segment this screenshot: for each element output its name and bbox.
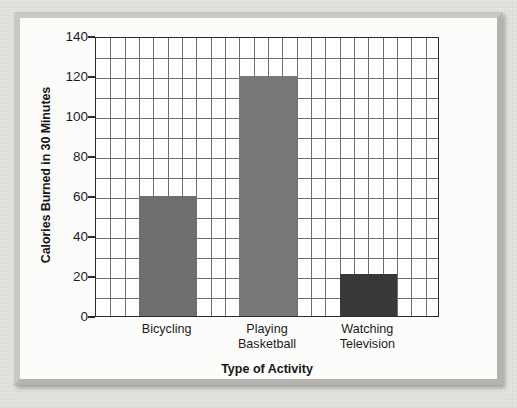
y-axis-tick-label: 0 <box>48 310 88 324</box>
bar-chart: Calories Burned in 30 Minutes 0204060801… <box>20 18 497 379</box>
y-axis-tick-mark <box>88 36 95 38</box>
y-axis-tick-mark <box>88 276 95 278</box>
y-axis-tick-label: 80 <box>48 150 88 164</box>
y-axis-tick-label: 40 <box>48 230 88 244</box>
y-axis-tick-labels: 020406080100120140 <box>42 37 88 317</box>
plot-area <box>95 37 439 317</box>
y-axis-tick-mark <box>88 156 95 158</box>
bar <box>139 196 196 316</box>
y-axis-tick-label: 100 <box>48 110 88 124</box>
y-axis-tick-label: 60 <box>48 190 88 204</box>
x-axis-category-labels: BicyclingPlayingBasketballWatchingTelevi… <box>95 322 439 362</box>
y-axis-tick-mark <box>88 116 95 118</box>
y-axis-tick-mark <box>88 76 95 78</box>
scanned-page: Calories Burned in 30 Minutes 0204060801… <box>0 0 517 408</box>
bar <box>239 76 296 316</box>
y-axis-tick-label: 120 <box>48 70 88 84</box>
x-axis-category-label-line: Television <box>307 337 427 352</box>
bar-series <box>96 38 438 316</box>
x-axis-category-label-line: Watching <box>307 322 427 337</box>
y-axis-tick-mark <box>88 196 95 198</box>
x-axis-category-label: WatchingTelevision <box>307 322 427 352</box>
y-axis-tick-mark <box>88 236 95 238</box>
figure-inner: Calories Burned in 30 Minutes 0204060801… <box>20 18 497 379</box>
figure-frame: Calories Burned in 30 Minutes 0204060801… <box>14 12 503 385</box>
x-axis-title: Type of Activity <box>95 362 439 376</box>
bar <box>340 274 397 316</box>
y-axis-tick-mark <box>88 316 95 318</box>
y-axis-tick-label: 140 <box>48 30 88 44</box>
y-axis-tick-label: 20 <box>48 270 88 284</box>
